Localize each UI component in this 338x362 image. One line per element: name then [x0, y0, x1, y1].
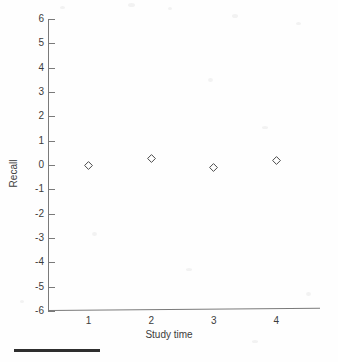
y-axis-tick-label-text: 4: [10, 63, 44, 73]
x-axis-tick-label: 4: [266, 315, 286, 326]
y-axis-tick-mark: [49, 214, 55, 215]
y-axis-tick-mark: [49, 311, 55, 312]
y-axis-tick-label: 3: [0, 87, 44, 97]
y-axis-tick-mark: [49, 116, 55, 117]
data-point-marker: [84, 161, 93, 170]
y-axis-tick-mark: [49, 189, 55, 190]
y-axis-tick-mark: [49, 141, 55, 142]
y-axis-tick-label: 5: [0, 38, 44, 48]
y-axis-tick-mark: [49, 19, 55, 20]
y-axis-tick-mark: [49, 262, 55, 263]
scatter-plot-figure: 6543210-1-2-3-4-5-6 Recall 1234 Study ti…: [0, 0, 338, 362]
scan-speckle: [262, 126, 268, 129]
scan-speckle: [92, 232, 97, 236]
y-axis-tick-label: -5: [0, 282, 44, 292]
x-axis-tick-label: 3: [204, 315, 224, 326]
scan-speckle: [128, 3, 135, 7]
y-axis-title: Recall: [8, 149, 19, 199]
y-axis-tick-label-text: -5: [10, 282, 44, 292]
y-axis-tick-label-text: 5: [10, 38, 44, 48]
y-axis-tick-label-text: -2: [10, 209, 44, 219]
data-point-marker: [147, 154, 156, 163]
y-axis-tick-label-text: 6: [10, 14, 44, 24]
y-axis-tick-label-text: -6: [10, 306, 44, 316]
y-axis-tick-label: -4: [0, 257, 44, 267]
y-axis-tick-mark: [49, 43, 55, 44]
scan-speckle: [20, 300, 24, 303]
y-axis-tick-mark: [49, 238, 55, 239]
y-axis-tick-label: 1: [0, 136, 44, 146]
y-axis-tick-label-text: 2: [10, 111, 44, 121]
y-axis-tick-mark: [49, 287, 55, 288]
y-axis-tick-label: 2: [0, 111, 44, 121]
x-axis-title: Study time: [0, 329, 338, 340]
scan-speckle: [296, 22, 301, 25]
scan-speckle: [208, 78, 213, 82]
y-axis-tick-mark: [49, 68, 55, 69]
x-axis-tick-label: 2: [141, 315, 161, 326]
data-point-marker: [209, 163, 218, 172]
y-axis-tick-label-text: -3: [10, 233, 44, 243]
data-point-marker: [272, 156, 281, 165]
y-axis-tick-mark: [49, 165, 55, 166]
y-axis-tick-label: -6: [0, 306, 44, 316]
y-axis-tick-label-text: -4: [10, 257, 44, 267]
scan-speckle: [252, 340, 258, 343]
scan-speckle: [186, 268, 192, 271]
y-axis-tick-label-text: 1: [10, 136, 44, 146]
scan-speckle: [306, 292, 311, 296]
y-axis-tick-label: -3: [0, 233, 44, 243]
x-axis-tick-label: 1: [79, 315, 99, 326]
y-axis-tick-mark: [49, 92, 55, 93]
y-axis-tick-label: 4: [0, 63, 44, 73]
scan-speckle: [232, 14, 238, 18]
y-axis-tick-label: -2: [0, 209, 44, 219]
y-axis-tick-label: 6: [0, 14, 44, 24]
scan-speckle: [60, 6, 65, 9]
x-axis-line: [48, 308, 320, 311]
scan-speckle: [168, 7, 172, 10]
y-axis-tick-label-text: 3: [10, 87, 44, 97]
footer-rule: [14, 349, 100, 352]
